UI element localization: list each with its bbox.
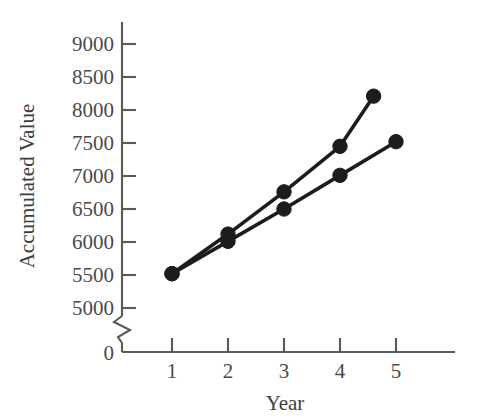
y-tick-label-7000: 7000 [72,164,114,188]
y-tick-label-9000: 9000 [72,32,114,56]
y-axis-origin-label: 0 [104,341,115,365]
data-point-lower-series-4 [333,168,347,182]
x-tick-label-2: 2 [223,359,234,383]
y-tick-label-8500: 8500 [72,65,114,89]
x-axis-title: Year [266,391,305,415]
line-chart-canvas: 9000 8500 8000 7500 7000 6500 6000 5500 … [0,0,481,420]
data-point-upper-series-3 [277,185,291,199]
chart-figure: 9000 8500 8000 7500 7000 6500 6000 5500 … [0,0,481,420]
data-point-lower-series-1 [165,266,179,280]
y-tick-label-6500: 6500 [72,197,114,221]
y-tick-label-5000: 5000 [72,296,114,320]
x-tick-label-3: 3 [279,359,290,383]
data-point-lower-series-3 [277,202,291,216]
data-point-lower-series-2 [221,234,235,248]
x-tick-label-5: 5 [391,359,402,383]
x-tick-label-1: 1 [167,359,178,383]
data-point-upper-series-4 [333,139,347,153]
y-tick-label-8000: 8000 [72,98,114,122]
data-point-upper-series-5 [366,89,380,103]
y-tick-label-7500: 7500 [72,131,114,155]
data-point-lower-series-5 [389,134,403,148]
x-tick-label-4: 4 [335,359,346,383]
y-tick-label-5500: 5500 [72,263,114,287]
y-axis-title: Accumulated Value [15,104,39,269]
y-tick-label-6000: 6000 [72,230,114,254]
y-axis-tick-labels: 9000 8500 8000 7500 7000 6500 6000 5500 … [72,32,114,365]
